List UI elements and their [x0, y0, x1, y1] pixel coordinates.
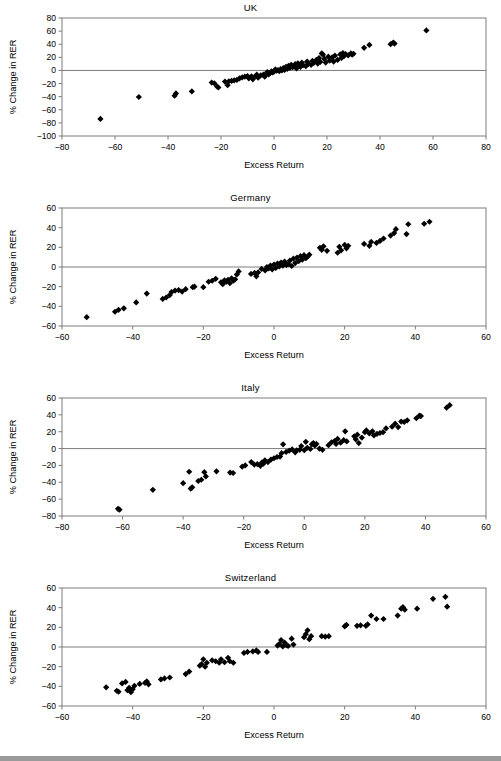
- y-tick-label: 0: [51, 262, 56, 272]
- y-tick-label: −80: [41, 118, 56, 128]
- data-point: [280, 441, 286, 447]
- y-tick-label: 0: [51, 444, 56, 454]
- x-tick-label: 0: [302, 522, 307, 532]
- data-point: [144, 290, 150, 296]
- x-tick-label: 20: [360, 522, 370, 532]
- data-point: [180, 480, 186, 486]
- data-point: [366, 42, 372, 48]
- y-axis-title: % Change in RER: [8, 419, 18, 494]
- x-tick-label: 80: [481, 142, 491, 152]
- data-point: [380, 616, 386, 622]
- y-tick-label: 0: [51, 642, 56, 652]
- x-tick-label: 0: [272, 712, 277, 722]
- data-point: [133, 299, 139, 305]
- y-tick-label: −60: [41, 494, 56, 504]
- y-tick-label: −40: [41, 301, 56, 311]
- plot-uk: −100−80−60−40−20020406080−80−60−40−20020…: [0, 0, 501, 190]
- data-point: [121, 305, 127, 311]
- y-tick-label: 40: [46, 603, 56, 613]
- x-tick-label: −20: [236, 522, 251, 532]
- data-point-group: [115, 402, 453, 513]
- y-tick-label: −100: [37, 131, 57, 141]
- panel-germany: Germany −60−40−200204060−60−40−200204060…: [0, 190, 501, 380]
- y-tick-label: 60: [46, 393, 56, 403]
- data-point-group: [84, 219, 433, 321]
- data-point: [405, 221, 411, 227]
- y-tick-label: 20: [46, 242, 56, 252]
- panel-italy: Italy −80−60−40−200204060−80−60−40−20020…: [0, 380, 501, 570]
- data-point: [395, 612, 401, 618]
- x-tick-label: 20: [340, 332, 350, 342]
- data-point: [430, 596, 436, 602]
- x-tick-label: 60: [481, 712, 491, 722]
- plot-switzerland: −60−40−200204060−60−40−200204060Excess R…: [0, 570, 501, 760]
- x-tick-label: −80: [55, 522, 70, 532]
- x-tick-label: −60: [55, 712, 70, 722]
- x-axis-title: Excess Return: [244, 540, 304, 550]
- x-tick-label: 0: [272, 142, 277, 152]
- x-tick-label: 40: [421, 522, 431, 532]
- data-point: [186, 469, 192, 475]
- x-tick-label: 40: [411, 712, 421, 722]
- footer-divider-bar: [0, 756, 501, 761]
- data-point: [213, 468, 219, 474]
- y-axis-title: % Change in RER: [8, 229, 18, 304]
- data-point: [84, 314, 90, 320]
- y-tick-label: 20: [46, 622, 56, 632]
- data-point: [189, 88, 195, 94]
- plot-germany: −60−40−200204060−60−40−200204060Excess R…: [0, 190, 501, 380]
- data-point: [368, 612, 374, 618]
- data-point: [421, 221, 427, 227]
- y-tick-label: −20: [41, 79, 56, 89]
- data-point: [289, 636, 295, 642]
- plot-frame: [62, 18, 486, 136]
- y-tick-label: 0: [51, 65, 56, 75]
- x-tick-label: 40: [375, 142, 385, 152]
- x-axis-title: Excess Return: [244, 350, 304, 360]
- data-point: [359, 435, 365, 441]
- data-point: [426, 219, 432, 225]
- y-tick-label: 40: [46, 223, 56, 233]
- x-tick-label: −40: [176, 522, 191, 532]
- scatter-plot-figure: UK −100−80−60−40−20020406080−80−60−40−20…: [0, 0, 501, 761]
- y-tick-label: 60: [46, 203, 56, 213]
- x-tick-label: −20: [214, 142, 229, 152]
- x-tick-label: −80: [55, 142, 70, 152]
- x-tick-label: 60: [481, 332, 491, 342]
- x-axis-title: Excess Return: [244, 730, 304, 740]
- data-point: [264, 649, 270, 655]
- y-tick-label: −60: [41, 105, 56, 115]
- y-tick-label: −40: [41, 92, 56, 102]
- panel-uk: UK −100−80−60−40−20020406080−80−60−40−20…: [0, 0, 501, 190]
- x-tick-label: 20: [340, 712, 350, 722]
- y-tick-label: −80: [41, 511, 56, 521]
- y-tick-label: 40: [46, 410, 56, 420]
- data-point: [361, 241, 367, 247]
- y-tick-label: 20: [46, 427, 56, 437]
- data-point: [324, 248, 330, 254]
- data-point: [150, 487, 156, 493]
- x-tick-label: −20: [196, 712, 211, 722]
- data-point-group: [103, 594, 450, 696]
- data-point: [303, 439, 309, 445]
- data-point: [167, 674, 173, 680]
- data-point: [403, 231, 409, 237]
- data-point-group: [97, 27, 429, 122]
- panel-switzerland: Switzerland −60−40−200204060−60−40−20020…: [0, 570, 501, 760]
- x-tick-label: −40: [161, 142, 176, 152]
- x-tick-label: 40: [411, 332, 421, 342]
- y-tick-label: 40: [46, 39, 56, 49]
- data-point: [137, 681, 143, 687]
- data-point: [136, 94, 142, 100]
- y-tick-label: −20: [41, 460, 56, 470]
- x-tick-label: −40: [125, 332, 140, 342]
- data-point: [200, 284, 206, 290]
- x-tick-label: −60: [108, 142, 123, 152]
- x-tick-label: 20: [322, 142, 332, 152]
- data-point: [342, 428, 348, 434]
- data-point: [442, 594, 448, 600]
- x-tick-label: 0: [272, 332, 277, 342]
- data-point: [423, 27, 429, 33]
- y-tick-label: −40: [41, 681, 56, 691]
- y-tick-label: 60: [46, 26, 56, 36]
